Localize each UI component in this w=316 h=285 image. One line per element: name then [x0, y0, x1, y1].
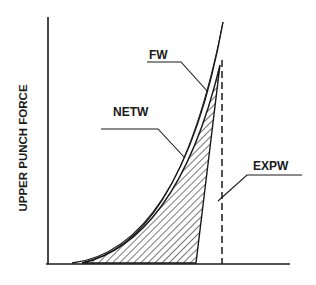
y-axis-label: UPPER PUNCH FORCE	[17, 84, 29, 211]
force-displacement-diagram: FW NETW EXPW UPPER PUNCH FORCE	[0, 0, 316, 285]
netw-leader	[101, 129, 185, 158]
fw-leader	[147, 62, 208, 92]
expw-label: EXPW	[253, 159, 289, 173]
expw-leader	[218, 175, 302, 201]
fw-label: FW	[149, 48, 168, 62]
netw-label: NETW	[113, 105, 149, 119]
netw-hatched-region	[82, 65, 220, 263]
